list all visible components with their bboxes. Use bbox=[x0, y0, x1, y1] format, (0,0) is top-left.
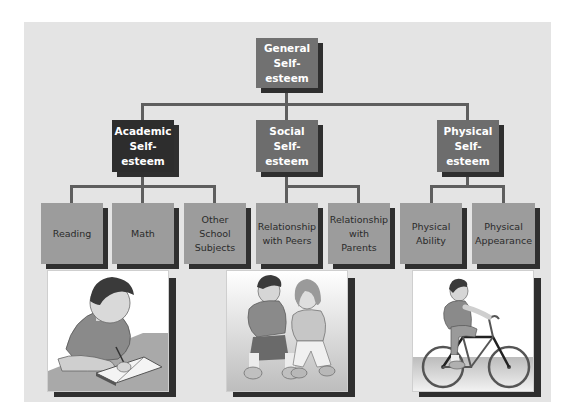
node-physical-appearance: Physical Appearance bbox=[472, 203, 535, 264]
ability-label: Physical Ability bbox=[412, 220, 451, 248]
connector-social-horizontal bbox=[285, 185, 360, 188]
connector-parents-up bbox=[357, 185, 360, 204]
connector-tier2-horizontal bbox=[141, 103, 469, 106]
connector-physical-horizontal bbox=[430, 185, 505, 188]
node-social-self-esteem: Social Self- esteem bbox=[256, 120, 318, 172]
academic-node-label: Academic Self- esteem bbox=[115, 124, 172, 169]
root-node-label: General Self- esteem bbox=[264, 41, 310, 86]
connector-reading-up bbox=[70, 185, 73, 204]
node-physical-ability: Physical Ability bbox=[400, 203, 462, 264]
academic-illustration-boy-writing bbox=[47, 270, 169, 392]
node-relationship-with-peers: Relationship with Peers bbox=[256, 203, 318, 264]
node-academic-self-esteem: Academic Self- esteem bbox=[112, 120, 174, 172]
connector-math-up bbox=[141, 185, 144, 204]
physical-node-label: Physical Self- esteem bbox=[444, 124, 493, 169]
physical-illustration-boy-bicycle bbox=[412, 270, 534, 392]
node-other-school-subjects: Other School Subjects bbox=[184, 203, 246, 264]
root-node-general-self-esteem: General Self- esteem bbox=[256, 38, 318, 88]
connector-social-up bbox=[285, 103, 288, 121]
node-reading: Reading bbox=[41, 203, 103, 264]
math-label: Math bbox=[131, 227, 155, 241]
social-illustration-children-talking bbox=[226, 270, 348, 392]
connector-physical-up bbox=[466, 103, 469, 121]
parents-label: Relationship with Parents bbox=[330, 213, 388, 255]
appearance-label: Physical Appearance bbox=[475, 220, 532, 248]
node-relationship-with-parents: Relationship with Parents bbox=[328, 203, 390, 264]
peers-label: Relationship with Peers bbox=[258, 220, 316, 248]
other-subjects-label: Other School Subjects bbox=[195, 213, 235, 255]
reading-label: Reading bbox=[53, 227, 92, 241]
connector-appearance-up bbox=[502, 185, 505, 204]
connector-academic-up bbox=[141, 103, 144, 121]
connector-social-down bbox=[285, 174, 288, 204]
social-node-label: Social Self- esteem bbox=[265, 124, 309, 169]
node-math: Math bbox=[112, 203, 174, 264]
connector-ability-up bbox=[430, 185, 433, 204]
node-physical-self-esteem: Physical Self- esteem bbox=[437, 120, 499, 172]
connector-other-up bbox=[213, 185, 216, 204]
